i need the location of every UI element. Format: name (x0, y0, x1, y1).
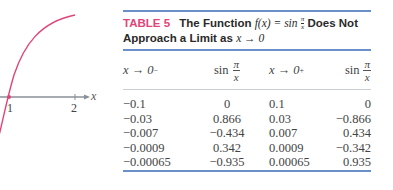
cell-x-left: −0.03 (123, 112, 193, 127)
header-x-left-sup: − (154, 66, 159, 75)
table-label: TABLE 5 (123, 17, 170, 29)
cell-x-left: −0.007 (123, 126, 193, 141)
cell-sin-left: 0 (195, 97, 259, 112)
frac-num: π (363, 58, 371, 71)
title-line2-text: Approach a Limit as (123, 32, 233, 44)
sine-curve (0, 15, 75, 140)
cell-sin-right: −0.342 (323, 141, 371, 156)
title-frac-den: x (301, 24, 305, 31)
cell-sin-left: −0.935 (195, 155, 259, 170)
cell-x-right: 0.03 (269, 112, 329, 127)
header-sin-right-frac: π x (363, 58, 371, 83)
title-math: f(x) = sin (255, 17, 298, 29)
title-text-2: Does Not (307, 17, 357, 29)
cell-x-right: 0.007 (269, 126, 329, 141)
cell-x-left: −0.00065 (123, 155, 193, 170)
cell-sin-left: −0.434 (195, 126, 259, 141)
sine-graph: 1 2 x (0, 0, 118, 190)
title-line-1: TABLE 5 The Function f(x) = sin π x Does… (123, 16, 373, 31)
header-rule (123, 49, 371, 51)
header-sin-right-fn: sin (345, 63, 360, 78)
curve-point (7, 95, 11, 99)
header-sin-left-fn: sin (214, 63, 229, 78)
cell-sin-left: 0.342 (195, 141, 259, 156)
graph-plot (0, 0, 118, 190)
cell-sin-right: 0.935 (323, 155, 371, 170)
header-x-right: x → 0+ (269, 55, 329, 85)
table-5: TABLE 5 The Function f(x) = sin π x Does… (123, 0, 373, 190)
cell-sin-right: 0 (323, 97, 371, 112)
cell-x-right: 0.00065 (269, 155, 329, 170)
cell-sin-right: −0.866 (323, 112, 371, 127)
frac-den: x (234, 71, 239, 83)
cell-sin-right: 0.434 (323, 126, 371, 141)
cell-x-right: 0.0009 (269, 141, 329, 156)
header-x-right-sup: + (300, 66, 305, 75)
x-axis-arrow-icon (84, 95, 90, 100)
cell-x-left: −0.1 (123, 97, 193, 112)
subheader-rule (123, 89, 371, 90)
bottom-rule (123, 170, 371, 172)
cell-x-right: 0.1 (269, 97, 329, 112)
title-fraction: π x (301, 16, 305, 31)
header-sin-right: sin π x (323, 55, 371, 85)
frac-den: x (365, 71, 370, 83)
title-line-2: Approach a Limit as x → 0 (123, 31, 373, 46)
cell-sin-left: 0.866 (195, 112, 259, 127)
header-x-left: x → 0− (123, 55, 193, 85)
title-text-1: The Function (179, 17, 251, 29)
header-x-right-text: x → 0 (269, 63, 300, 78)
title-line2-math: x → 0 (236, 32, 264, 44)
header-sin-left-frac: π x (233, 58, 241, 83)
table-title: TABLE 5 The Function f(x) = sin π x Does… (123, 16, 373, 46)
tick-label-2: 2 (71, 101, 77, 116)
x-axis-label: x (91, 89, 96, 104)
frac-num: π (233, 58, 241, 71)
tick-label-1: 1 (7, 101, 13, 116)
header-sin-left: sin π x (195, 55, 259, 85)
cell-x-left: −0.0009 (123, 141, 193, 156)
top-rule (123, 10, 371, 12)
header-x-left-text: x → 0 (123, 63, 154, 78)
